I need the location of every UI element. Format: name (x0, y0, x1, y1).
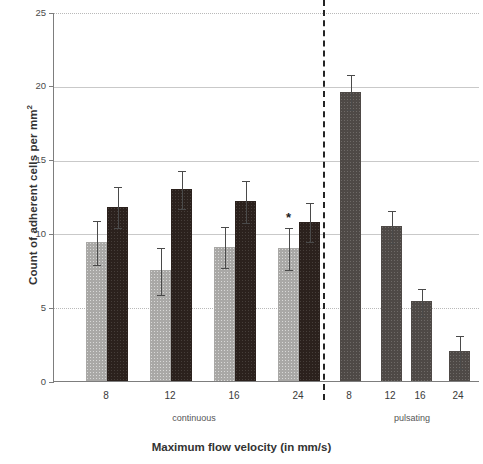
x-tick-label-continuous-16: 16 (228, 390, 239, 401)
error-cap-lower-dark-8 (114, 228, 122, 229)
bar-dark-24 (299, 222, 320, 381)
error-cap-upper-light-8 (93, 221, 101, 222)
group-label-continuous: continuous (172, 413, 216, 423)
error-bar-light-12 (161, 248, 162, 295)
y-tick-label-5: 5 (12, 302, 46, 313)
x-tick-label-pulsating-16: 16 (414, 390, 425, 401)
bar-pulsating-12 (381, 226, 402, 381)
plot-area: * (53, 13, 479, 382)
bar-pulsating-8 (340, 92, 361, 381)
x-tick-label-continuous-12: 12 (164, 390, 175, 401)
error-bar-pulsating-16 (422, 289, 423, 316)
error-cap-upper-pulsating-12 (388, 211, 396, 212)
y-tick-label-0: 0 (12, 376, 46, 387)
y-tick-label-20: 20 (12, 80, 46, 91)
error-cap-lower-light-24 (285, 270, 293, 271)
error-bar-light-8 (97, 221, 98, 265)
group-divider (323, 0, 325, 400)
x-tick-label-pulsating-24: 24 (452, 390, 463, 401)
error-cap-lower-dark-12 (178, 209, 186, 210)
error-bar-dark-24 (310, 203, 311, 241)
error-bar-pulsating-8 (351, 75, 352, 110)
error-cap-lower-dark-24 (306, 242, 314, 243)
error-cap-lower-light-12 (157, 295, 165, 296)
error-cap-lower-light-8 (93, 265, 101, 266)
y-tick-label-15: 15 (12, 154, 46, 165)
x-tick-label-pulsating-8: 8 (346, 390, 352, 401)
y-axis-title-exponent: 2 (25, 105, 34, 110)
error-cap-lower-pulsating-16 (418, 316, 426, 317)
x-tick-label-continuous-8: 8 (103, 390, 109, 401)
error-cap-upper-pulsating-8 (347, 75, 355, 76)
error-bar-dark-16 (246, 181, 247, 222)
error-cap-lower-light-16 (221, 268, 229, 269)
error-cap-lower-pulsating-8 (347, 110, 355, 111)
error-cap-upper-dark-12 (178, 171, 186, 172)
error-cap-upper-dark-24 (306, 203, 314, 204)
error-cap-lower-dark-16 (242, 223, 250, 224)
error-bar-dark-12 (182, 171, 183, 209)
error-cap-upper-light-12 (157, 248, 165, 249)
bar-dark-16 (235, 201, 256, 381)
error-bar-light-24 (289, 228, 290, 269)
error-cap-upper-light-16 (221, 227, 229, 228)
x-tick-label-pulsating-12: 12 (384, 390, 395, 401)
x-tick-label-continuous-24: 24 (292, 390, 303, 401)
y-tick-label-10: 10 (12, 228, 46, 239)
error-bar-light-16 (225, 227, 226, 268)
y-tick-mark-0 (49, 382, 54, 383)
x-axis-title: Maximum flow velocity (in mm/s) (0, 441, 483, 453)
bar-chart-figure: Count of adherent cells per mm2 25 20 15… (0, 0, 483, 464)
error-cap-upper-light-24 (285, 228, 293, 229)
bar-dark-12 (171, 189, 192, 381)
error-cap-lower-pulsating-12 (388, 243, 396, 244)
bars-layer: * (54, 13, 479, 381)
y-tick-label-25: 25 (12, 7, 46, 18)
group-label-pulsating: pulsating (394, 413, 430, 423)
error-cap-upper-pulsating-24 (456, 336, 464, 337)
y-axis-title-text: Count of adherent cells per mm (27, 109, 39, 285)
error-cap-lower-pulsating-24 (456, 369, 464, 370)
significance-marker: * (286, 211, 291, 224)
error-bar-dark-8 (118, 187, 119, 228)
bar-dark-8 (107, 207, 128, 381)
error-bar-pulsating-24 (460, 336, 461, 368)
error-cap-upper-dark-16 (242, 181, 250, 182)
error-cap-upper-pulsating-16 (418, 289, 426, 290)
error-cap-upper-dark-8 (114, 187, 122, 188)
error-bar-pulsating-12 (392, 211, 393, 243)
